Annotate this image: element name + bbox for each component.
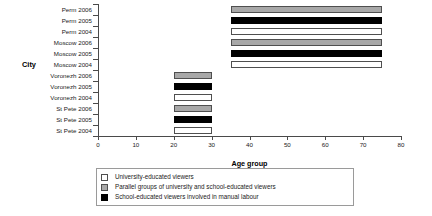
legend-swatch-black	[101, 194, 108, 201]
x-axis-title: Age group	[232, 159, 268, 168]
bar	[174, 72, 212, 79]
bar	[174, 83, 212, 90]
y-axis-tick-label: St Pete 2004	[4, 127, 92, 134]
legend-swatch-white	[101, 174, 108, 181]
plot-area	[98, 4, 400, 136]
bar	[231, 28, 383, 35]
x-axis-tick	[287, 136, 288, 140]
legend-label: School-educated viewers involved in manu…	[115, 193, 259, 201]
x-axis-tick-label: 50	[284, 141, 291, 148]
y-axis-tick-label: Voronezh 2006	[4, 72, 92, 79]
y-axis-tick-label: Voronezh 2005	[4, 83, 92, 90]
legend-label: University-educated viewers	[115, 173, 194, 181]
bar	[174, 127, 212, 134]
x-axis-tick	[174, 136, 175, 140]
bar-chart: City Perm 2006Perm 2005Perm 2004Moscow 2…	[0, 0, 432, 216]
x-axis-tick	[401, 136, 402, 140]
chart-legend: University-educated viewersParallel grou…	[96, 168, 354, 206]
bar	[231, 39, 383, 46]
bar	[174, 94, 212, 101]
legend-item: School-educated viewers involved in manu…	[101, 192, 349, 202]
x-axis-tick-label: 0	[96, 141, 99, 148]
x-axis-tick-label: 80	[398, 141, 405, 148]
y-axis-labels: Perm 2006Perm 2005Perm 2004Moscow 2006Mo…	[0, 0, 92, 140]
x-axis-tick-label: 30	[208, 141, 215, 148]
x-axis-tick-label: 40	[246, 141, 253, 148]
bar	[231, 50, 383, 57]
legend-label: Parallel groups of university and school…	[115, 183, 276, 191]
x-axis-tick	[325, 136, 326, 140]
y-axis-tick-label: Perm 2005	[4, 17, 92, 24]
y-axis-tick-label: Moscow 2004	[4, 61, 92, 68]
y-axis-tick-label: Moscow 2005	[4, 50, 92, 57]
y-axis-tick-label: Moscow 2006	[4, 39, 92, 46]
bar	[231, 6, 383, 13]
y-axis-tick-label: Voronezh 2004	[4, 94, 92, 101]
x-axis-tick-label: 70	[360, 141, 367, 148]
legend-item: Parallel groups of university and school…	[101, 182, 349, 192]
x-axis-tick-label: 20	[170, 141, 177, 148]
x-axis-tick-label: 10	[132, 141, 139, 148]
legend-item: University-educated viewers	[101, 172, 349, 182]
bar	[231, 17, 383, 24]
bar	[174, 105, 212, 112]
y-axis-tick-label: Perm 2004	[4, 28, 92, 35]
bar	[231, 61, 383, 68]
bar	[174, 116, 212, 123]
x-axis-tick	[363, 136, 364, 140]
x-axis-tick	[98, 136, 99, 140]
y-axis-tick-label: St Pete 2006	[4, 105, 92, 112]
y-axis-tick-label: Perm 2006	[4, 6, 92, 13]
x-axis-tick	[212, 136, 213, 140]
x-axis-tick-label: 60	[322, 141, 329, 148]
x-axis-tick	[136, 136, 137, 140]
y-axis-tick-label: St Pete 2005	[4, 116, 92, 123]
x-axis-tick	[250, 136, 251, 140]
legend-swatch-gray	[101, 184, 108, 191]
